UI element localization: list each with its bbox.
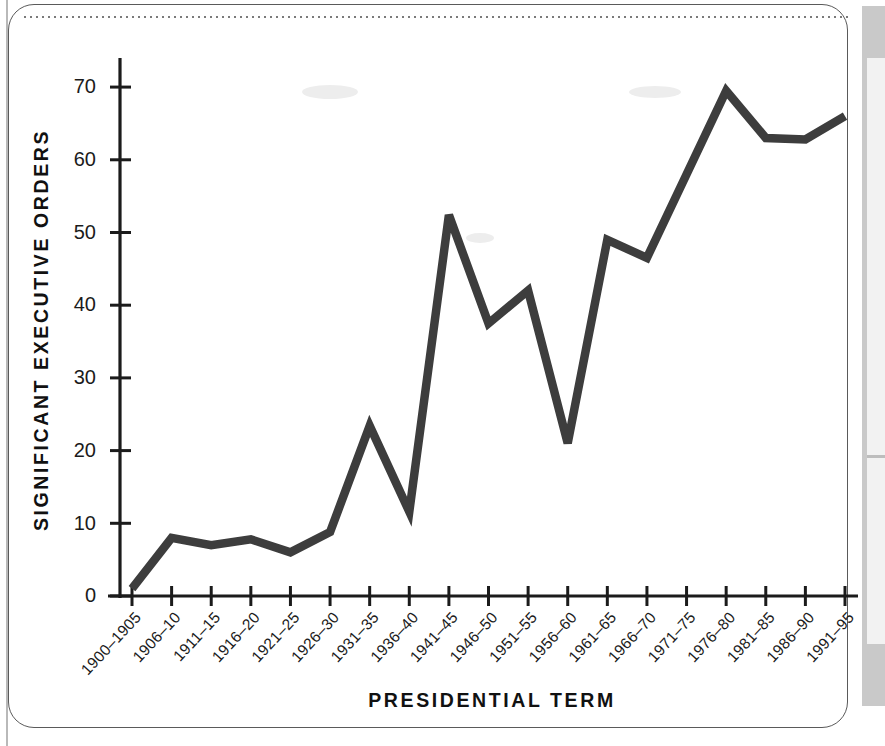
y-axis-tick-labels: 010203040506070 <box>74 75 96 606</box>
scan-smudge <box>302 85 358 99</box>
y-axis-tick-label: 30 <box>74 366 96 388</box>
scan-smudge <box>466 233 494 243</box>
y-axis: 010203040506070 <box>74 58 131 606</box>
scan-smudge <box>629 86 681 98</box>
y-axis-tick-label: 50 <box>74 221 96 243</box>
x-axis-title: PRESIDENTIAL TERM <box>368 689 616 711</box>
executive-orders-series <box>132 91 845 589</box>
chart-svg: 010203040506070 1900–19051906–101911–151… <box>0 0 885 746</box>
y-axis-tick-label: 0 <box>85 584 96 606</box>
x-axis-tick-label: 1900–1905 <box>78 608 145 678</box>
line-chart: 010203040506070 1900–19051906–101911–151… <box>0 0 885 746</box>
y-axis-title: SIGNIFICANT EXECUTIVE ORDERS <box>30 129 52 531</box>
x-axis: 1900–19051906–101911–151916–201921–25192… <box>78 586 858 678</box>
y-axis-tick-label: 40 <box>74 293 96 315</box>
scanned-page: 010203040506070 1900–19051906–101911–151… <box>0 0 885 746</box>
y-axis-tick-label: 60 <box>74 148 96 170</box>
y-axis-tick-label: 70 <box>74 75 96 97</box>
x-axis-tick-labels: 1900–19051906–101911–151916–201921–25192… <box>78 608 858 678</box>
y-axis-tick-label: 10 <box>74 512 96 534</box>
y-axis-tick-label: 20 <box>74 439 96 461</box>
